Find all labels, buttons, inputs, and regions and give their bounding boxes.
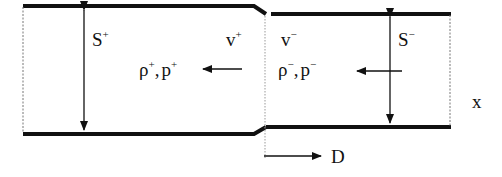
area-plus-label: S+ xyxy=(92,28,109,50)
velocity-plus-label: v+ xyxy=(226,28,242,50)
shock-tube-diagram: S+ v+ ρ+,p+ v− S− ρ−,p− x D xyxy=(0,0,502,177)
axis-x-label: x xyxy=(472,91,482,112)
state-plus-label: ρ+,p+ xyxy=(139,58,177,80)
velocity-minus-label: v− xyxy=(281,28,297,50)
front-velocity-label: D xyxy=(331,146,345,167)
area-minus-label: S− xyxy=(398,28,415,50)
state-minus-label: ρ−,p− xyxy=(278,58,316,80)
left-tube-bottom-wall xyxy=(23,127,266,134)
left-tube-top-wall xyxy=(23,6,266,14)
